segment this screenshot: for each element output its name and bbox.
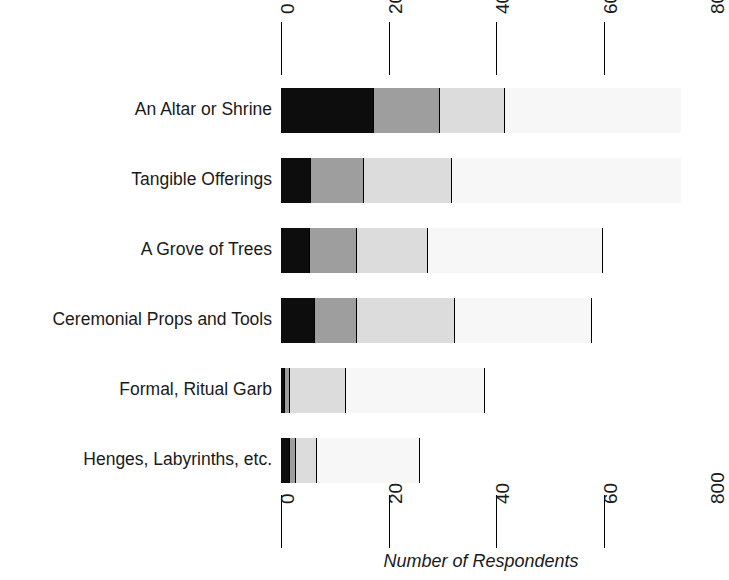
bar-row (281, 298, 681, 343)
x-tick-label-top-800: 800 (707, 0, 729, 14)
bar-segment (428, 228, 603, 273)
bar-segment (315, 298, 357, 343)
bar-segment (281, 438, 290, 483)
bar-segment (485, 368, 681, 413)
x-tick-label-bottom-800: 800 (707, 472, 729, 504)
plot-area (281, 75, 681, 495)
bar-segment (592, 298, 681, 343)
x-tick-label-top-400: 400 (492, 0, 514, 14)
x-tick-label-bottom-0: 0 (277, 493, 299, 504)
gridline-top-400 (496, 22, 497, 75)
bar-segment (290, 368, 346, 413)
category-label: Ceremonial Props and Tools (0, 309, 272, 330)
x-tick-label-top-200: 200 (385, 0, 407, 14)
bar-segment (281, 88, 374, 133)
category-label: Henges, Labyrinths, etc. (0, 449, 272, 470)
bar-segment (374, 88, 440, 133)
x-tick-label-top-0: 0 (277, 3, 299, 14)
bar-segment (357, 298, 455, 343)
category-label: An Altar or Shrine (0, 99, 272, 120)
bar-segment (281, 298, 315, 343)
bar-segment (346, 368, 486, 413)
bar-row (281, 368, 681, 413)
bar-row (281, 158, 681, 203)
bar-segment (440, 88, 505, 133)
x-tick-label-top-600: 600 (600, 0, 622, 14)
bar-segment (311, 158, 364, 203)
gridline-top-200 (389, 22, 390, 75)
bar-segment (603, 228, 681, 273)
gridline-top-600 (604, 22, 605, 75)
bar-segment (364, 158, 452, 203)
bar-segment (452, 158, 681, 203)
bar-segment (317, 438, 420, 483)
bar-segment (357, 228, 428, 273)
bar-segment (505, 88, 681, 133)
bar-segment (296, 438, 317, 483)
category-label: A Grove of Trees (0, 239, 272, 260)
category-label: Formal, Ritual Garb (0, 379, 272, 400)
category-label: Tangible Offerings (0, 169, 272, 190)
x-axis-title: Number of Respondents (281, 551, 681, 572)
bar-row (281, 88, 681, 133)
gridline-top-0 (281, 22, 282, 75)
bar-segment (310, 228, 357, 273)
bar-segment (455, 298, 592, 343)
bar-segment (420, 438, 681, 483)
bar-segment (281, 158, 311, 203)
bar-segment (281, 228, 310, 273)
bar-row (281, 228, 681, 273)
bar-row (281, 438, 681, 483)
